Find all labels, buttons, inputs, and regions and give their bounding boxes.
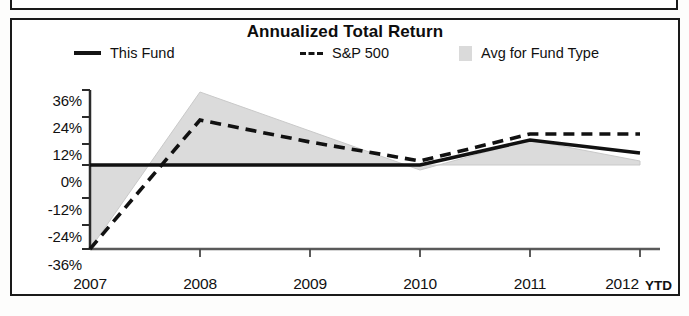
annualized-total-return-chart-panel: Annualized Total Return This Fund S&P 50…: [10, 18, 680, 296]
scanned-page-background: Annualized Total Return This Fund S&P 50…: [0, 0, 689, 316]
chart-svg: [12, 20, 682, 298]
series-avg-for-fund-type-area: [90, 92, 640, 249]
panel-above-chart-stub: [10, 0, 678, 10]
plot-area: [12, 20, 682, 298]
